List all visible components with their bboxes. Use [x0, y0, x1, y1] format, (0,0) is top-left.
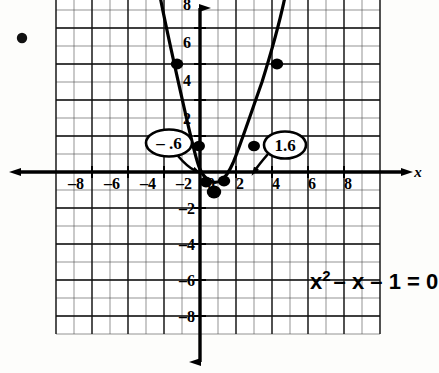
x-tick-label: 8	[344, 175, 352, 192]
coordinate-plane-figure: – .6 1.6 –8 –6 –4 –2 0 2 4 6 8 8 6 4 2 –…	[0, 0, 439, 373]
x-tick-label: 2	[236, 175, 244, 192]
y-tick-label: –8	[178, 308, 195, 325]
y-tick-label: 2	[183, 110, 191, 127]
point-marker	[271, 59, 283, 70]
x-tick-label: 0	[207, 175, 215, 192]
point-marker	[218, 176, 230, 187]
x-tick-label: –8	[67, 175, 84, 192]
x-axis-tick-labels: –8 –6 –4 –2 0 2 4 6 8	[67, 175, 352, 192]
scan-artifact-dot	[17, 33, 27, 43]
left-root-callout-label: – .6	[155, 134, 182, 153]
equation-exponent: 2	[322, 267, 330, 284]
equation-rest: – x – 1 = 0	[334, 269, 439, 294]
y-tick-label: –4	[178, 236, 195, 253]
y-tick-label: –2	[178, 200, 195, 217]
y-tick-label: 6	[183, 34, 191, 51]
y-tick-label: 8	[183, 0, 191, 13]
x-tick-label: –4	[139, 175, 156, 192]
grid	[56, 0, 380, 334]
x-tick-label: –2	[175, 175, 192, 192]
x-tick-label: 4	[272, 175, 280, 192]
point-marker	[193, 141, 205, 151]
equation-base: x	[310, 269, 323, 294]
y-tick-label: 4	[183, 72, 191, 89]
graph-page: – .6 1.6 –8 –6 –4 –2 0 2 4 6 8 8 6 4 2 –…	[0, 0, 439, 373]
x-axis-label: x	[413, 164, 422, 180]
x-tick-label: –6	[103, 175, 120, 192]
point-marker	[248, 141, 260, 151]
point-marker	[171, 59, 183, 70]
y-tick-label: –6	[178, 272, 195, 289]
x-tick-label: 6	[308, 175, 316, 192]
right-root-callout-label: 1.6	[274, 136, 295, 155]
